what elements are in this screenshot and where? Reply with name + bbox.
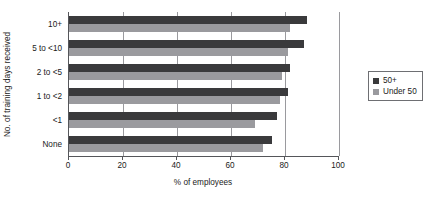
y-axis-tick-label: 5 to <10 — [16, 36, 66, 60]
bar-chart: No. of training days received 10+5 to <1… — [0, 0, 437, 207]
bar-group — [69, 84, 339, 108]
y-axis-title: No. of training days received — [0, 0, 16, 168]
legend-item[interactable]: 50+ — [373, 75, 417, 86]
y-axis-tick-label: 2 to <5 — [16, 60, 66, 84]
y-axis-tick-label: <1 — [16, 108, 66, 132]
bar[interactable] — [69, 48, 288, 56]
y-axis-tick-label: None — [16, 132, 66, 156]
bar[interactable] — [69, 120, 255, 128]
gridline — [339, 12, 340, 156]
bar[interactable] — [69, 24, 290, 32]
bar[interactable] — [69, 88, 288, 96]
legend-swatch-icon — [373, 89, 379, 95]
x-axis-tickmark — [176, 156, 177, 160]
plot-area — [68, 12, 339, 156]
x-axis-tick-label: 60 — [225, 161, 234, 170]
legend-label: Under 50 — [383, 87, 417, 96]
legend-swatch-icon — [373, 78, 379, 84]
bar-groups — [69, 12, 339, 156]
bar[interactable] — [69, 112, 277, 120]
y-axis-tick-labels: 10+5 to <102 to <51 to <2<1None — [16, 12, 66, 156]
x-axis-tickmark — [284, 156, 285, 160]
bar-group — [69, 132, 339, 156]
bar[interactable] — [69, 96, 280, 104]
legend-label: 50+ — [383, 76, 397, 85]
x-axis-tick-label: 40 — [171, 161, 180, 170]
bar[interactable] — [69, 136, 272, 144]
bar[interactable] — [69, 40, 304, 48]
bar[interactable] — [69, 144, 263, 152]
legend-item[interactable]: Under 50 — [373, 86, 417, 97]
bar-group — [69, 36, 339, 60]
x-axis-tick-label: 80 — [279, 161, 288, 170]
bar[interactable] — [69, 64, 290, 72]
x-axis-title: % of employees — [68, 178, 338, 187]
bar-group — [69, 12, 339, 36]
x-axis-tick-label: 20 — [117, 161, 126, 170]
y-axis-title-text: No. of training days received — [4, 31, 13, 136]
y-axis-tick-label: 1 to <2 — [16, 84, 66, 108]
x-axis-tickmark — [68, 156, 69, 160]
x-axis-tick-label: 100 — [331, 161, 345, 170]
x-axis-tickmark — [122, 156, 123, 160]
bar-group — [69, 108, 339, 132]
bar[interactable] — [69, 72, 282, 80]
bar-group — [69, 60, 339, 84]
x-axis-tickmark — [230, 156, 231, 160]
y-axis-tick-label: 10+ — [16, 12, 66, 36]
x-axis-tickmark — [338, 156, 339, 160]
x-axis-tick-label: 0 — [66, 161, 71, 170]
legend: 50+Under 50 — [368, 71, 423, 101]
bar[interactable] — [69, 16, 307, 24]
x-axis-ticks: 020406080100 — [68, 156, 338, 160]
